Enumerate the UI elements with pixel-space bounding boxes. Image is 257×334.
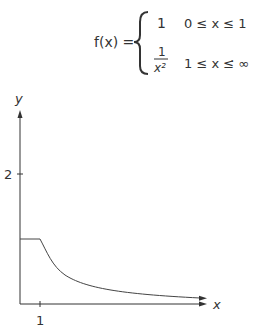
case2-condition: 1 ≤ x ≤ ∞ bbox=[184, 56, 249, 71]
case2-denominator: x² bbox=[153, 61, 166, 75]
piecewise-equation: f(x) = 1 0 ≤ x ≤ 1 1 x² 1 ≤ x ≤ ∞ . bbox=[0, 0, 257, 80]
case1-condition: 0 ≤ x ≤ 1 bbox=[184, 16, 247, 31]
case2-numerator: 1 bbox=[158, 45, 166, 59]
y-tick-label-2: 2 bbox=[4, 167, 12, 182]
y-axis-label: y bbox=[14, 91, 23, 106]
x-tick-label-1: 1 bbox=[36, 313, 44, 328]
case1-value: 1 bbox=[157, 15, 166, 31]
y-axis-arrow-icon bbox=[18, 110, 23, 118]
function-curve bbox=[20, 239, 200, 298]
curve-arrow-icon bbox=[199, 296, 207, 301]
function-plot: y x 1 2 bbox=[0, 85, 257, 334]
equation-lhs: f(x) = bbox=[94, 34, 134, 50]
equation-period: . bbox=[230, 49, 234, 65]
left-brace bbox=[134, 12, 148, 74]
x-axis-arrow-icon bbox=[199, 302, 207, 307]
x-axis-label: x bbox=[212, 297, 221, 312]
